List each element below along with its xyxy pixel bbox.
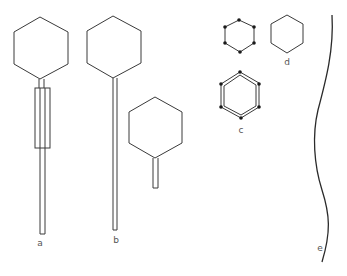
vertex-dot-icon bbox=[239, 116, 243, 120]
panel-a: a bbox=[14, 17, 68, 248]
panel-c: c bbox=[219, 70, 261, 135]
panel-dotted-hexagon bbox=[223, 18, 256, 54]
vertex-dot-icon bbox=[257, 105, 261, 109]
dotted-hexagon-outline bbox=[225, 20, 254, 52]
panel-b: b bbox=[87, 16, 141, 245]
vertex-dot-icon bbox=[238, 70, 242, 74]
vertex-dot-icon bbox=[238, 50, 242, 54]
vertex-dot-icon bbox=[219, 82, 223, 86]
vertex-dot-icon bbox=[223, 41, 227, 45]
panel-c-inner-hexagon bbox=[224, 75, 256, 115]
panel-e-filament bbox=[315, 15, 333, 262]
vertex-dot-icon bbox=[252, 25, 256, 29]
phage-morphology-figure: a b d bbox=[0, 0, 347, 276]
vertex-dot-icon bbox=[257, 82, 261, 86]
short-tail-head-hexagon bbox=[129, 97, 182, 158]
vertex-dot-icon bbox=[223, 25, 227, 29]
panel-c-outer-hexagon bbox=[221, 72, 259, 118]
panel-e: e bbox=[315, 15, 333, 262]
panel-d: d bbox=[271, 15, 303, 67]
panel-c-label: c bbox=[239, 125, 244, 135]
panel-a-head-hexagon bbox=[14, 17, 68, 79]
panel-b-head-hexagon bbox=[87, 16, 141, 78]
vertex-dot-icon bbox=[237, 18, 241, 22]
panel-b-label: b bbox=[113, 235, 119, 245]
panel-a-label: a bbox=[37, 238, 43, 248]
panel-a-sheath bbox=[35, 88, 50, 148]
panel-d-label: d bbox=[284, 57, 290, 67]
panel-d-hexagon bbox=[271, 15, 303, 53]
vertex-dot-icon bbox=[219, 105, 223, 109]
vertex-dot-icon bbox=[252, 41, 256, 45]
panel-e-label: e bbox=[317, 243, 323, 253]
panel-short-tail bbox=[129, 97, 182, 188]
